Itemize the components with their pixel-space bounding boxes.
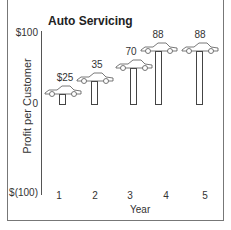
bar-year-3: [130, 68, 137, 105]
car-icon: [43, 84, 83, 98]
x-tick-2: 2: [88, 190, 102, 201]
y-axis-line: [41, 31, 42, 195]
value-label-year-1: $25: [50, 72, 80, 83]
x-axis-label: Year: [130, 204, 150, 215]
car-icon: [75, 71, 115, 85]
value-label-year-2: 35: [82, 59, 112, 70]
x-tick-1: 1: [52, 190, 66, 201]
bar-year-4: [155, 51, 162, 105]
x-tick-4: 4: [159, 190, 173, 201]
value-label-year-4: 88: [143, 29, 173, 40]
chart-title: Auto Servicing: [48, 14, 133, 28]
y-tick-top: $100: [2, 27, 38, 38]
x-tick-3: 3: [123, 190, 137, 201]
y-tick-bottom: $(100): [2, 187, 38, 198]
value-label-year-3: 70: [116, 46, 146, 57]
car-icon: [114, 58, 154, 72]
car-icon: [180, 41, 220, 55]
value-label-year-5: 88: [185, 29, 215, 40]
x-tick-5: 5: [198, 190, 212, 201]
bar-year-5: [196, 51, 203, 105]
y-axis-label: Profit per Customer: [21, 51, 33, 161]
